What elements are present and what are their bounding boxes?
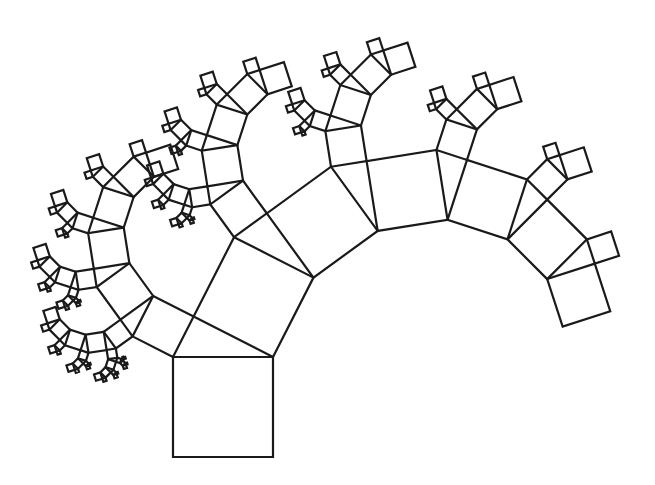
tree-square	[130, 140, 146, 156]
tree-square	[543, 143, 559, 159]
tree-square	[260, 62, 292, 94]
tree-square	[194, 237, 314, 357]
tree-square	[51, 190, 67, 206]
tree-square	[162, 124, 170, 132]
tree-square	[93, 187, 133, 227]
tree-square	[84, 171, 92, 179]
tree-square	[367, 38, 383, 54]
tree-square	[165, 107, 181, 123]
tree-square	[200, 72, 216, 88]
tree-square	[76, 269, 97, 290]
tree-square	[457, 89, 497, 129]
tree-square	[428, 103, 436, 111]
tree-square	[527, 159, 567, 199]
tree-square	[288, 88, 304, 104]
tree-square	[147, 161, 163, 177]
tree-square	[367, 150, 448, 231]
tree-square	[113, 157, 153, 197]
tree-squares	[31, 38, 619, 457]
tree-square	[383, 43, 415, 75]
tree-square	[94, 372, 102, 380]
tree-square	[170, 218, 178, 226]
tree-square	[325, 125, 366, 166]
tree-square	[87, 154, 103, 170]
tree-square	[210, 181, 267, 238]
tree-square	[48, 345, 56, 353]
tree-square	[123, 365, 127, 369]
tree-square	[286, 104, 294, 112]
tree-square	[547, 264, 610, 327]
tree-square	[448, 160, 527, 239]
tree-square	[66, 363, 74, 371]
tree-square	[86, 332, 107, 353]
tree-square	[124, 357, 126, 359]
tree-square	[198, 88, 206, 96]
tree-square	[227, 74, 267, 114]
tree-square	[587, 231, 619, 263]
tree-square	[49, 206, 57, 214]
tree-square	[207, 105, 247, 145]
tree-square	[436, 119, 476, 159]
tree-square	[189, 186, 210, 207]
tree-square	[473, 73, 489, 89]
tree-square	[31, 260, 39, 268]
tree-square	[169, 146, 177, 154]
tree-square	[107, 349, 118, 360]
tree-square	[76, 302, 80, 306]
tree-square	[322, 68, 330, 76]
tree-square	[324, 52, 340, 68]
tree-square	[267, 167, 378, 278]
tree-square	[38, 282, 46, 290]
tree-square	[152, 200, 160, 208]
tree-square	[41, 323, 49, 331]
tree-square	[173, 357, 273, 457]
tree-square	[113, 374, 117, 378]
tree-square	[86, 365, 90, 369]
tree-square	[43, 307, 59, 323]
tree-square	[104, 320, 133, 349]
tree-square	[190, 220, 194, 224]
tree-square	[88, 228, 129, 269]
tree-square	[560, 147, 592, 179]
tree-square	[351, 54, 391, 94]
tree-square	[430, 87, 446, 103]
tree-square	[56, 300, 64, 308]
tree-square	[507, 200, 586, 279]
tree-square	[293, 126, 301, 134]
tree-square	[243, 58, 259, 74]
pythagoras-tree-diagram	[0, 0, 655, 485]
tree-square	[33, 244, 49, 260]
tree-square	[202, 145, 243, 186]
tree-square	[489, 77, 521, 109]
tree-square	[56, 228, 64, 236]
tree-square	[330, 85, 370, 125]
